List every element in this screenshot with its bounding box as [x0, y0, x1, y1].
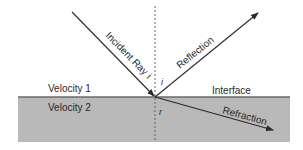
interface-label: Interface	[212, 85, 251, 96]
velocity-1-label: Velocity 1	[48, 83, 91, 94]
incident-angle-label: i	[161, 77, 164, 87]
incident-ray-label: Incident Ray i	[104, 30, 154, 81]
velocity-2-label: Velocity 2	[48, 102, 91, 113]
reflection-refraction-diagram: Velocity 1 Velocity 2 Interface Incident…	[0, 0, 303, 150]
